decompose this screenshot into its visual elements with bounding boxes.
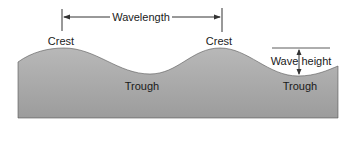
arrow-down-icon bbox=[297, 69, 302, 75]
arrow-left-icon bbox=[63, 15, 70, 20]
arrow-right-icon bbox=[214, 15, 221, 20]
trough-left-label: Trough bbox=[125, 80, 159, 92]
wavelength-indicator: Wavelength bbox=[62, 8, 222, 32]
crest-left-label: Crest bbox=[48, 35, 74, 47]
wave-height-indicator: Wave height bbox=[271, 48, 332, 75]
crest-right-label: Crest bbox=[206, 35, 232, 47]
wave-diagram: Wavelength Crest Crest Trough Trough Wav… bbox=[0, 0, 350, 142]
wave-height-label: Wave height bbox=[271, 55, 332, 67]
trough-right-label: Trough bbox=[283, 80, 317, 92]
wavelength-label: Wavelength bbox=[112, 11, 170, 23]
